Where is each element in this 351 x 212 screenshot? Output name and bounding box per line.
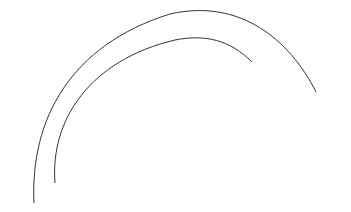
- right-arc-inner-drawn: [296, 166, 304, 212]
- inner-right: [296, 166, 303, 212]
- paren-arc-1: [296, 166, 304, 212]
- right-inner-arc: [297, 165, 303, 212]
- right-interior-arc-inner: [297, 165, 303, 212]
- right-arc-1: [297, 164, 304, 212]
- right-inner-paren-line: [297, 166, 304, 212]
- paren-a: [296, 166, 303, 212]
- interior-right-arc-1: [296, 168, 304, 200]
- interior-boundary-right-inner: [296, 166, 303, 212]
- inner-right-paren: [296, 166, 303, 212]
- right-bracket-inner: [296, 166, 304, 212]
- paren-inner-visible: [297, 166, 304, 212]
- interior-arc-inner: [297, 165, 304, 212]
- paren-b: [296, 166, 303, 212]
- bracket-left: [296, 167, 303, 212]
- interior-right-arc-left: [297, 165, 304, 198]
- membrane-inner-arc-continuation: [297, 165, 304, 212]
- right-bracket-left-arc: [296, 166, 303, 212]
- glycogen-synthesis-diagram: [0, 0, 351, 212]
- interior-right-arc-inner-final: [297, 166, 304, 212]
- inner-paren: [296, 166, 303, 212]
- inner-membrane-right: [296, 166, 303, 212]
- membrane-outer-arc: [34, 11, 316, 203]
- interior-right-paren-inner: [297, 166, 303, 212]
- right-arc-inner: [297, 164, 304, 212]
- arc-inner-right: [297, 165, 303, 212]
- membrane-inner-arc-right: [296, 166, 303, 212]
- right-arc-a: [296, 166, 303, 212]
- right-arc-inner-visible: [296, 166, 303, 212]
- visible-inner-right-arc: [297, 166, 304, 212]
- interior-right-arc-a: [297, 166, 303, 212]
- right-paren-inner: [297, 166, 303, 212]
- inner-bracket: [297, 166, 304, 212]
- inner-arc-right-side: [297, 166, 304, 212]
- right-side-inner-arc: [297, 166, 304, 212]
- interior-bracket-1: [296, 166, 304, 212]
- membrane-inner-arc: [55, 38, 252, 183]
- inner-arc-right: [297, 166, 304, 212]
- inner-right-arc: [297, 165, 303, 212]
- interior-right-arc-inner: [297, 166, 303, 212]
- right-arc: [297, 166, 304, 212]
- interior-arc-left: [297, 165, 303, 212]
- right-paren-outer: [324, 166, 330, 212]
- visible-right-arc-inner: [296, 166, 303, 212]
- right-arc-inner-line: [297, 167, 304, 212]
- diagram-lines: [0, 0, 351, 212]
